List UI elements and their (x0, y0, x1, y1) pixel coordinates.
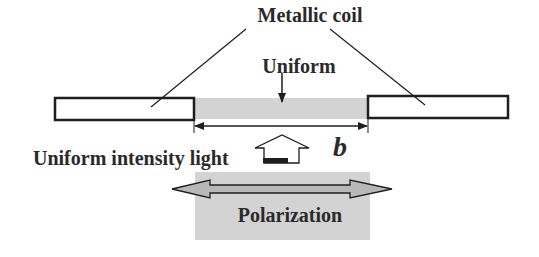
gap-width-label: b (333, 131, 347, 162)
coil-leader-right (330, 29, 425, 105)
light-source-block (263, 158, 288, 163)
uniform-region (194, 98, 368, 119)
uniform-intensity-light-label: Uniform intensity light (33, 147, 229, 170)
metallic-coil-label: Metallic coil (258, 4, 363, 26)
coil-leader-left (151, 29, 246, 107)
left-coil (55, 98, 194, 120)
right-coil (368, 96, 508, 118)
uniform-label: Uniform (262, 55, 336, 77)
polarization-label: Polarization (238, 204, 342, 226)
diagram-canvas: Metallic coil Uniform b Uniform intensit… (0, 0, 539, 257)
